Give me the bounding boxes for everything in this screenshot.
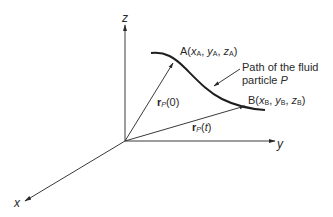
- annotation-leader-arrow: [214, 69, 240, 86]
- point-a-label: A(xA, yA, zA): [180, 45, 237, 57]
- path-annotation-line2: particle P: [242, 74, 289, 86]
- fluid-particle-path-diagram: z y x A(xA, yA, zA) B(xB, yB, zB) Path o…: [0, 0, 333, 217]
- x-axis-label: x: [13, 196, 21, 210]
- vector-label-rt: rP(t): [192, 121, 211, 133]
- y-axis-label: y: [276, 137, 284, 151]
- z-axis-label: z: [121, 11, 128, 25]
- x-axis: [25, 141, 125, 201]
- vector-label-r0: rP(0): [157, 96, 179, 108]
- path-annotation-line1: Path of the fluid: [242, 61, 318, 73]
- point-b-label: B(xB, yB, zB): [248, 94, 305, 106]
